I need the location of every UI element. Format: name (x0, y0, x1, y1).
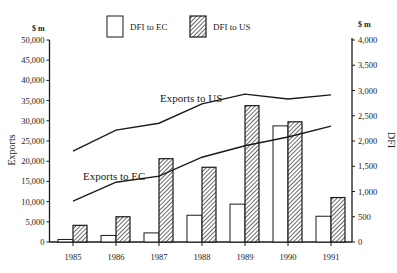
left-tick-label: 25,000 (21, 136, 44, 146)
year-label: 1985 (65, 252, 82, 262)
left-tick-label: 10,000 (21, 197, 44, 207)
x-axis-ticks: 1985198619871988198919901991 (65, 242, 340, 262)
left-tick-label: 45,000 (21, 55, 44, 65)
legend-swatch-dfi-us (190, 16, 206, 37)
left-tick-label: 0 (40, 237, 44, 247)
right-tick-label: 2,000 (358, 136, 377, 146)
left-axis-ticks: 05,00010,00015,00020,00025,00030,00035,0… (21, 35, 49, 247)
right-tick-label: 4,000 (358, 35, 377, 45)
left-axis-title: Exports (6, 134, 17, 165)
left-tick-label: 5,000 (25, 217, 44, 227)
right-tick-label: 1,000 (358, 187, 377, 197)
right-tick-label: 0 (358, 237, 362, 247)
left-axis-unit: $ m (32, 24, 45, 33)
legend-label-dfi-ec: DFI to EC (130, 22, 168, 32)
year-label: 1987 (151, 252, 168, 262)
right-tick-label: 3,000 (358, 86, 377, 96)
right-tick-label: 1,500 (358, 161, 377, 171)
legend-label-dfi-us: DFI to US (213, 22, 251, 32)
legend-swatch-dfi-ec (107, 16, 123, 37)
dfi-exports-chart: DFI to EC DFI to US $ m $ m Exports DFI … (0, 0, 397, 273)
year-label: 1990 (280, 252, 297, 262)
bar-dfi-ec (101, 235, 116, 242)
bar-dfi-us (331, 198, 345, 242)
bar-dfi-us (245, 106, 259, 242)
right-axis-ticks: 05001,0001,5002,0002,5003,0003,5004,000 (352, 35, 377, 247)
right-axis-unit: $ m (358, 20, 371, 29)
bar-dfi-us (116, 217, 130, 242)
bar-dfi-ec (144, 233, 159, 242)
annotation-exports-to-ec: Exports to EC (83, 170, 145, 182)
bar-dfi-us (202, 167, 216, 242)
right-tick-label: 500 (358, 212, 371, 222)
year-label: 1986 (108, 252, 125, 262)
right-tick-label: 3,500 (358, 60, 377, 70)
bar-dfi-ec (273, 126, 288, 242)
left-tick-label: 40,000 (21, 75, 44, 85)
bar-dfi-ec (230, 204, 245, 242)
left-tick-label: 35,000 (21, 96, 44, 106)
left-tick-label: 15,000 (21, 176, 44, 186)
left-tick-label: 50,000 (21, 35, 44, 45)
year-label: 1989 (237, 252, 254, 262)
bar-dfi-us (73, 225, 87, 242)
legend: DFI to EC DFI to US (107, 16, 251, 37)
annotation-exports-to-us: Exports to US (160, 92, 222, 104)
bar-dfi-ec (58, 239, 73, 242)
year-label: 1988 (194, 252, 211, 262)
right-axis-title: DFI (386, 132, 397, 148)
right-tick-label: 2,500 (358, 111, 377, 121)
bar-dfi-ec (187, 215, 202, 242)
bar-dfi-us (288, 122, 302, 242)
left-tick-label: 30,000 (21, 116, 44, 126)
year-label: 1991 (323, 252, 340, 262)
left-tick-label: 20,000 (21, 156, 44, 166)
bar-dfi-ec (316, 216, 331, 242)
